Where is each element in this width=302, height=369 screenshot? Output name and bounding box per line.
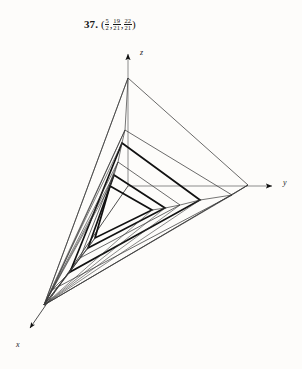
convergence-line xyxy=(44,200,200,305)
three-d-triangles-figure xyxy=(0,0,302,369)
convergence-line xyxy=(44,186,110,305)
vertex-connector xyxy=(122,130,125,143)
convergence-line xyxy=(44,143,122,305)
nested-triangle-group xyxy=(44,78,248,305)
x-axis-line xyxy=(30,186,128,328)
convergence-line xyxy=(44,210,152,305)
figure-page: 37. (52,1921,2221) z y x xyxy=(0,0,302,369)
vertex-connector-group xyxy=(44,78,248,305)
triangle-1-outermost xyxy=(44,78,248,305)
convergence-line xyxy=(44,205,180,305)
convergence-line xyxy=(44,130,125,305)
